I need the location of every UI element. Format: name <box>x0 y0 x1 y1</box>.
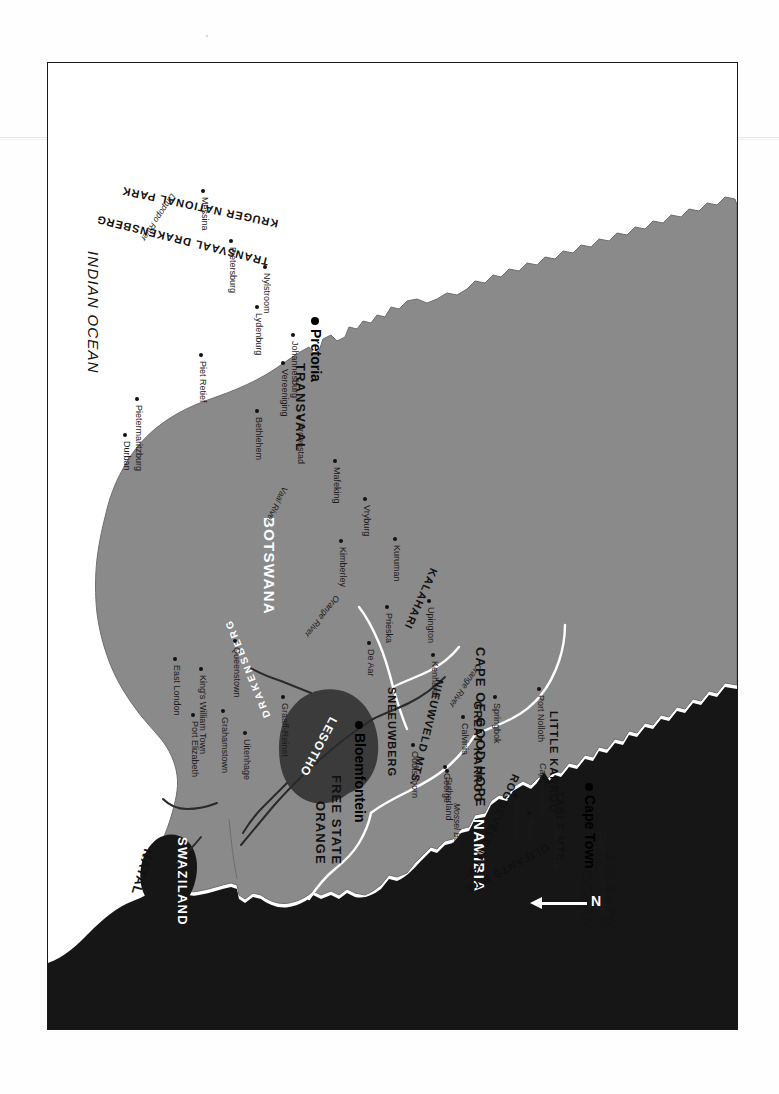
city-dot-calvinia <box>461 715 465 719</box>
city-dot-port-nolloth <box>537 687 541 691</box>
city-dot-bethlehem <box>255 409 259 413</box>
north-arrow-shaft <box>541 902 587 905</box>
city-dot-paarl <box>527 811 531 815</box>
city-dot-kings-william-town <box>199 667 203 671</box>
city-dot-graaff-reinet <box>281 695 285 699</box>
scanned-page: MOZAMBIQUE ZIMBABWE BOTSWANA NAMIBIA SWA… <box>0 0 779 1094</box>
city-dot-queenstown <box>233 639 237 643</box>
city-dot-nylstroom <box>263 265 267 269</box>
city-dot-pietersburg <box>229 239 233 243</box>
north-arrow-head <box>530 897 542 909</box>
city-dot-vryburg <box>363 497 367 501</box>
city-dot-mafeking <box>333 459 337 463</box>
rotated-map-canvas: MOZAMBIQUE ZIMBABWE BOTSWANA NAMIBIA SWA… <box>48 63 737 1029</box>
capital-dot-cape-town <box>585 783 593 791</box>
map-geometry <box>48 63 737 1029</box>
city-dot-upington <box>427 599 431 603</box>
city-dot-lydenburg <box>255 305 259 309</box>
capital-dot-pretoria <box>311 317 319 325</box>
city-dot-kenhardt <box>431 653 435 657</box>
city-dot-port-elizabeth <box>191 713 195 717</box>
city-dot-uitenhage <box>243 731 247 735</box>
city-dot-de-aar <box>367 641 371 645</box>
capital-dot-bloemfontein <box>355 721 363 729</box>
city-dot-springbok <box>493 695 497 699</box>
city-dot-kroonstad <box>297 415 301 419</box>
city-dot-sutherland <box>445 769 449 773</box>
city-dot-prieska <box>385 605 389 609</box>
city-dot-kimberley <box>339 539 343 543</box>
city-dot-kuruman <box>393 537 397 541</box>
city-dot-piet-retief <box>199 353 203 357</box>
north-arrow-label: N <box>591 893 602 909</box>
city-dot-grahamstown <box>221 709 225 713</box>
scan-speck <box>206 35 208 37</box>
city-dot-worcester <box>513 793 517 797</box>
city-dot-east-london <box>173 657 177 661</box>
map-frame: MOZAMBIQUE ZIMBABWE BOTSWANA NAMIBIA SWA… <box>47 62 738 1030</box>
city-dot-vereeniging <box>281 361 285 365</box>
city-dot-pietermaritzburg <box>135 397 139 401</box>
city-dot-durban <box>123 433 127 437</box>
city-dot-oudtshoorn <box>411 743 415 747</box>
table-mountain-peak-marker <box>537 772 551 783</box>
city-dot-johannesburg <box>291 333 295 337</box>
city-dot-messina <box>201 189 205 193</box>
